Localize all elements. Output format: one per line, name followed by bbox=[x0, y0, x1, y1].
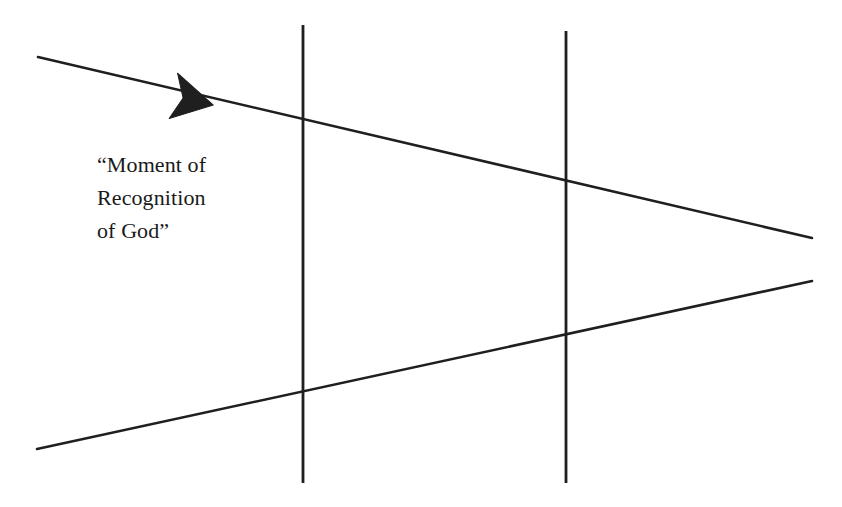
diagram-figure: “Moment of Recognition of God” bbox=[0, 0, 842, 507]
arrowhead-icon bbox=[167, 73, 218, 127]
lower-diagonal-line bbox=[37, 281, 812, 449]
diagram-canvas bbox=[0, 0, 842, 507]
moment-of-recognition-label: “Moment of Recognition of God” bbox=[97, 148, 307, 247]
